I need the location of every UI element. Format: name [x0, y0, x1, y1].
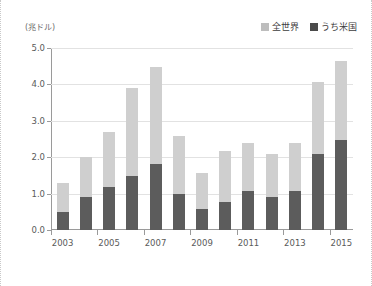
bar-segment-world [150, 67, 162, 165]
bar-group [266, 154, 278, 230]
bar-segment-world [289, 143, 301, 190]
bar-segment-us [103, 187, 115, 230]
x-axis-tick-mark [237, 230, 238, 235]
y-axis-tick-label: 3.0 [11, 116, 45, 126]
bar-group [150, 67, 162, 230]
x-axis-tick-label: 2015 [331, 238, 353, 248]
bar-group [80, 157, 92, 230]
bar-group [103, 132, 115, 230]
bar-segment-us [80, 197, 92, 230]
plot-area: 0.01.02.03.04.05.0 [51, 48, 353, 230]
x-axis-tick-mark [283, 230, 284, 235]
bar-series [51, 48, 353, 230]
bar-segment-us [312, 154, 324, 230]
bar-group [126, 88, 138, 230]
chart-container: (兆ドル) 全世界 うち米国 0.01.02.03.04.05.0 200320… [0, 0, 372, 286]
x-axis-tick-label: 2009 [191, 238, 213, 248]
y-axis-unit-label: (兆ドル) [25, 21, 55, 32]
bar-segment-world [103, 132, 115, 186]
bar-group [219, 151, 231, 230]
x-axis-tick-label: 2011 [238, 238, 260, 248]
y-axis-tick-label: 1.0 [11, 189, 45, 199]
x-axis-tick-mark [51, 230, 52, 235]
legend-item-us: うち米国 [310, 20, 357, 33]
bar-group [57, 183, 69, 230]
world-swatch-icon [261, 23, 269, 31]
x-axis-tick-label: 2007 [145, 238, 167, 248]
x-axis-tick-label: 2005 [98, 238, 120, 248]
bar-segment-us [126, 176, 138, 230]
bar-segment-world [173, 136, 185, 194]
x-axis-tick-label: 2003 [52, 238, 74, 248]
legend-label-us: うち米国 [321, 20, 357, 33]
bar-group [196, 173, 208, 230]
x-axis-tick-label: 2013 [284, 238, 306, 248]
bar-segment-us [150, 164, 162, 230]
bar-group [335, 61, 347, 230]
bar-segment-world [126, 88, 138, 176]
legend-label-world: 全世界 [272, 20, 299, 33]
bar-group [173, 136, 185, 230]
bar-segment-world [335, 61, 347, 140]
bar-segment-us [266, 197, 278, 230]
chart-legend: 全世界 うち米国 [261, 20, 357, 33]
legend-item-world: 全世界 [261, 20, 299, 33]
bar-group [242, 143, 254, 230]
bar-segment-us [219, 202, 231, 230]
y-axis-tick-label: 4.0 [11, 79, 45, 89]
bar-group [312, 82, 324, 230]
x-axis-labels: 2003200520072009201120132015 [51, 238, 353, 254]
bar-segment-world [266, 154, 278, 197]
bar-group [289, 143, 301, 230]
x-axis-tick-mark [190, 230, 191, 235]
bar-segment-us [242, 191, 254, 230]
y-axis-tick-label: 0.0 [11, 225, 45, 235]
bar-segment-world [57, 183, 69, 212]
x-axis-tick-mark [144, 230, 145, 235]
bar-segment-us [335, 140, 347, 230]
bar-segment-world [219, 151, 231, 202]
bar-segment-world [242, 143, 254, 190]
bar-segment-world [80, 157, 92, 197]
bar-segment-us [289, 191, 301, 230]
x-axis-tick-mark [97, 230, 98, 235]
bar-segment-us [196, 209, 208, 230]
x-axis-tick-mark [330, 230, 331, 235]
us-swatch-icon [310, 23, 318, 31]
bar-segment-world [196, 173, 208, 209]
y-axis-tick-label: 2.0 [11, 152, 45, 162]
bar-segment-world [312, 82, 324, 154]
bar-segment-us [173, 194, 185, 230]
y-axis-tick-label: 5.0 [11, 43, 45, 53]
bar-segment-us [57, 212, 69, 230]
